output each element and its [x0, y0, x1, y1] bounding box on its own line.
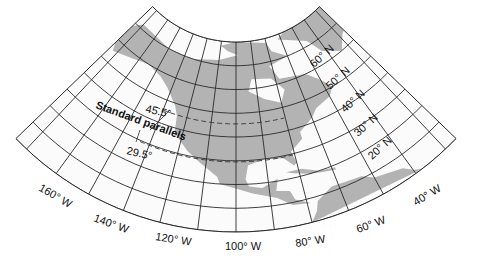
conic-projection-map: Standard parallels 45.5° 29.5° 60° N 50°…	[0, 0, 479, 262]
lon-label-40w: 40° W	[411, 182, 443, 208]
lon-label-100w: 100° W	[225, 240, 262, 252]
lon-label-80w: 80° W	[294, 232, 326, 249]
lon-label-120w: 120° W	[155, 230, 193, 248]
lon-label-160w: 160° W	[37, 181, 75, 210]
lon-label-60w: 60° W	[355, 213, 388, 235]
lon-label-140w: 140° W	[92, 212, 131, 236]
